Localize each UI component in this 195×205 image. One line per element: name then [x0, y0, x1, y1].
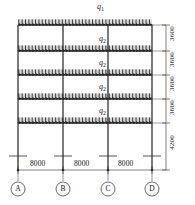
story-height-label-1: 4200 — [169, 131, 176, 155]
load-label-floor-3: q2 — [99, 59, 106, 67]
span-label-bc: 8000 — [74, 160, 89, 168]
span-label-ab: 8000 — [30, 160, 45, 168]
frame-drawing-canvas — [0, 0, 195, 205]
load-label-floor-1: q2 — [99, 107, 106, 115]
load-band-roof — [18, 20, 152, 25]
story-height-label-4: 3600 — [169, 48, 176, 72]
span-dimension-chain — [17, 166, 154, 181]
load-subscript-floor-3: 2 — [103, 62, 106, 68]
structural-frame-diagram: q1 q2 q2 q2 q2 8000 8000 8000 3600 3600 … — [0, 0, 195, 205]
grid-label-B: B — [56, 185, 70, 193]
load-band-floor-3 — [18, 70, 152, 75]
grid-label-A: A — [11, 185, 25, 193]
grid-bubble-group — [11, 182, 159, 196]
load-label-floor-2: q2 — [99, 83, 106, 91]
story-height-label-5: 3600 — [169, 22, 176, 46]
load-band-group — [18, 20, 152, 123]
span-label-cd: 8000 — [118, 160, 133, 168]
load-subscript-floor-1: 2 — [103, 110, 106, 116]
load-label-floor-4: q2 — [99, 35, 106, 43]
load-subscript-roof: 1 — [101, 6, 104, 12]
load-label-roof: q1 — [97, 3, 104, 11]
load-band-floor-4 — [18, 46, 152, 51]
story-height-label-3: 3600 — [169, 72, 176, 96]
story-height-label-2: 3600 — [169, 96, 176, 120]
load-subscript-floor-2: 2 — [103, 86, 106, 92]
load-subscript-floor-4: 2 — [103, 38, 106, 44]
load-band-floor-1 — [18, 118, 152, 123]
grid-label-D: D — [145, 185, 159, 193]
grid-label-C: C — [101, 185, 115, 193]
load-band-floor-2 — [18, 94, 152, 99]
